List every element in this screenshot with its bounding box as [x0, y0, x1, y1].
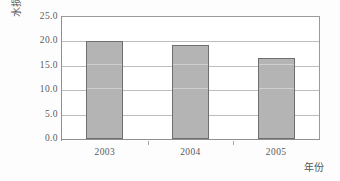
x-axis-title: 年份 [304, 162, 324, 174]
bar-chart-figure: 水损(%) 25.020.015.010.05.00.0 20032004200… [0, 0, 340, 181]
y-axis-tick-label: 5.0 [45, 109, 58, 119]
x-axis-tick-mark [233, 141, 234, 145]
y-axis-tick-labels: 25.020.015.010.05.00.0 [22, 12, 62, 144]
bar-2004 [172, 45, 209, 139]
x-axis-tick-label: 2004 [148, 146, 234, 158]
bar-inner-gridline [259, 64, 294, 65]
bar-2003 [86, 41, 123, 139]
x-axis-tick-labels: 200320042005 [62, 146, 320, 160]
y-axis-tick-label: 0.0 [45, 133, 58, 143]
bar-inner-gridline [173, 64, 208, 65]
bar-inner-gridline [173, 88, 208, 89]
y-axis-tick-label: 25.0 [40, 11, 58, 21]
y-axis-tick-label: 15.0 [40, 60, 58, 70]
x-axis-tick-label: 2005 [233, 146, 319, 158]
x-axis-tick-mark [148, 141, 149, 145]
y-axis-tick-label: 10.0 [40, 84, 58, 94]
x-axis-tick-label: 2003 [62, 146, 148, 158]
bar-inner-gridline [87, 64, 122, 65]
y-axis-tick-label: 20.0 [40, 35, 58, 45]
bar-inner-gridline [87, 88, 122, 89]
bar-inner-gridline [259, 88, 294, 89]
bar-2005 [258, 58, 295, 139]
plot-area [62, 16, 320, 140]
